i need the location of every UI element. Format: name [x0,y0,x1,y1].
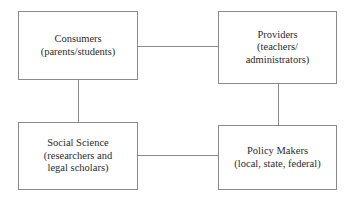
node-consumers: Consumers (parents/students) [18,11,138,80]
node-social-science-line-2: (researchers and [44,150,113,163]
node-consumers-line-1: Consumers [54,33,101,46]
node-providers-line-3: administrators) [246,54,310,67]
node-policy-makers: Policy Makers (local, state, federal) [218,125,337,190]
edge-consumers-social-science [78,80,79,122]
node-providers-line-2: (teachers/ [257,41,298,54]
node-social-science-line-3: legal scholars) [48,162,109,175]
edge-social-science-policy-makers [138,155,218,156]
edge-providers-policy-makers [278,84,279,125]
node-social-science: Social Science (researchers and legal sc… [18,122,138,190]
node-social-science-line-1: Social Science [47,137,109,150]
node-policy-makers-line-1: Policy Makers [247,145,308,158]
edge-consumers-providers [138,46,218,47]
node-consumers-line-2: (parents/students) [41,46,116,59]
node-providers-line-1: Providers [257,29,297,42]
node-providers: Providers (teachers/ administrators) [218,11,337,84]
node-policy-makers-line-2: (local, state, federal) [234,158,320,171]
diagram-canvas: Consumers (parents/students) Providers (… [0,0,351,197]
